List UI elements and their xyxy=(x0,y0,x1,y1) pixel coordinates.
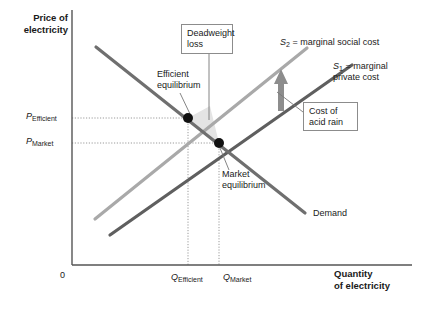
q-market-sub: Market xyxy=(230,276,251,283)
q-efficient-tick-label: QEfficient xyxy=(171,272,203,282)
q-market-base: Q xyxy=(223,272,230,282)
efficient-equilibrium-label: Efficient equilibrium xyxy=(157,69,209,91)
p-market-sub: Market xyxy=(32,140,53,147)
q-market-tick-label: QMarket xyxy=(223,272,251,282)
efficient-equilibrium-point xyxy=(183,113,193,123)
p-efficient-sub: Efficient xyxy=(32,115,57,122)
supply-private-label: S1 = marginal private cost xyxy=(333,61,388,83)
supply-social-text: = marginal social cost xyxy=(290,37,379,47)
y-axis-title: Price of electricity xyxy=(6,12,68,35)
shift-arrow-icon xyxy=(274,69,288,111)
demand-label: Demand xyxy=(313,208,347,219)
market-equilibrium-point xyxy=(214,138,224,148)
supply-private-subscript: 1 xyxy=(339,65,343,72)
q-efficient-base: Q xyxy=(171,272,178,282)
p-market-tick-label: PMarket xyxy=(26,136,53,146)
q-efficient-sub: Efficient xyxy=(178,276,203,283)
deadweight-loss-callout: Deadweight loss xyxy=(181,24,233,54)
p-efficient-tick-label: PEfficient xyxy=(26,111,57,121)
supply-social-label: S2 = marginal social cost xyxy=(280,37,379,48)
x-axis-title: Quantity of electricity xyxy=(334,268,420,291)
market-equilibrium-label: Market equilibrium xyxy=(222,169,274,191)
externality-diagram: Price of electricity Quantity of electri… xyxy=(0,0,422,309)
cost-of-acid-rain-callout: Cost of acid rain xyxy=(303,102,358,131)
efficient-equilibrium-leader-line xyxy=(180,93,190,114)
supply-social-subscript: 2 xyxy=(286,41,290,48)
origin-label: 0 xyxy=(60,270,65,280)
